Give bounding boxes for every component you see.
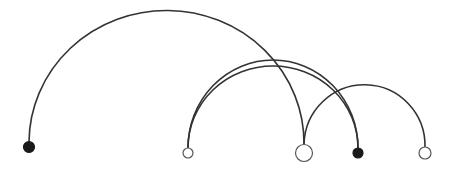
node-n1	[24, 142, 35, 153]
node-n3	[296, 145, 313, 162]
nodes-layer	[24, 142, 432, 162]
edge-n1-n3	[29, 10, 304, 144]
edge-n2-n4	[188, 60, 358, 148]
edge-n3-n5	[304, 85, 425, 147]
edges-layer	[29, 10, 425, 148]
node-n5	[419, 147, 431, 159]
arc-diagram	[0, 0, 458, 170]
edge-n2-n4	[188, 66, 358, 148]
node-n2	[183, 148, 193, 158]
node-n4	[353, 148, 363, 158]
